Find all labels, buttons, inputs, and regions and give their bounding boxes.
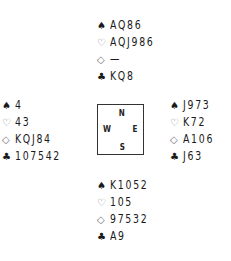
compass-box: N W E S	[97, 104, 144, 155]
east-hearts-row: ♡ K72	[170, 114, 223, 131]
north-diamonds-row: ◇ —	[97, 51, 167, 68]
east-diamonds-cards: A106	[183, 131, 214, 148]
south-spades-cards: K1052	[110, 177, 149, 194]
west-clubs-cards: 107542	[15, 148, 61, 165]
club-icon: ♣	[2, 148, 15, 165]
heart-icon: ♡	[2, 114, 15, 131]
club-icon: ♣	[97, 228, 110, 245]
north-diamonds-cards: —	[110, 51, 121, 68]
east-hearts-cards: K72	[183, 114, 206, 131]
south-spades-row: ♠ K1052	[97, 177, 159, 194]
south-diamonds-cards: 97532	[110, 211, 148, 228]
north-clubs-cards: KQ8	[110, 68, 135, 85]
diamond-icon: ◇	[2, 131, 15, 148]
west-diamonds-cards: KQJ84	[15, 131, 52, 148]
heart-icon: ♡	[170, 114, 183, 131]
spade-icon: ♠	[2, 97, 15, 114]
club-icon: ♣	[170, 148, 183, 165]
south-hearts-cards: 105	[110, 194, 133, 211]
diamond-icon: ◇	[170, 131, 183, 148]
south-clubs-row: ♣ A9	[97, 228, 159, 245]
diamond-icon: ◇	[97, 51, 110, 68]
spade-icon: ♠	[170, 97, 183, 114]
club-icon: ♣	[97, 68, 110, 85]
west-spades-row: ♠ 4	[2, 97, 74, 114]
south-diamonds-row: ◇ 97532	[97, 211, 159, 228]
spade-icon: ♠	[97, 17, 110, 34]
north-spades-row: ♠ AQ86	[97, 17, 167, 34]
compass-west-label: W	[103, 124, 111, 134]
east-spades-cards: J973	[183, 97, 210, 114]
north-hearts-cards: AQJ986	[110, 34, 155, 51]
spade-icon: ♠	[97, 177, 110, 194]
west-spades-cards: 4	[15, 97, 23, 114]
east-clubs-cards: J63	[183, 148, 203, 165]
north-hearts-row: ♡ AQJ986	[97, 34, 167, 51]
west-hand: ♠ 4 ♡ 43 ◇ KQJ84 ♣ 107542	[2, 97, 74, 165]
east-spades-row: ♠ J973	[170, 97, 223, 114]
heart-icon: ♡	[97, 34, 110, 51]
west-hearts-cards: 43	[15, 114, 30, 131]
north-spades-cards: AQ86	[110, 17, 142, 34]
compass-east-label: E	[132, 124, 137, 134]
west-diamonds-row: ◇ KQJ84	[2, 131, 74, 148]
west-hearts-row: ♡ 43	[2, 114, 74, 131]
north-clubs-row: ♣ KQ8	[97, 68, 167, 85]
west-clubs-row: ♣ 107542	[2, 148, 74, 165]
heart-icon: ♡	[97, 194, 110, 211]
compass-south-label: S	[120, 142, 125, 152]
south-clubs-cards: A9	[110, 228, 126, 245]
south-hand: ♠ K1052 ♡ 105 ◇ 97532 ♣ A9	[97, 177, 159, 245]
north-hand: ♠ AQ86 ♡ AQJ986 ◇ — ♣ KQ8	[97, 17, 167, 85]
compass-north-label: N	[119, 108, 125, 118]
south-hearts-row: ♡ 105	[97, 194, 159, 211]
diamond-icon: ◇	[97, 211, 110, 228]
east-diamonds-row: ◇ A106	[170, 131, 223, 148]
east-clubs-row: ♣ J63	[170, 148, 223, 165]
east-hand: ♠ J973 ♡ K72 ◇ A106 ♣ J63	[170, 97, 223, 165]
